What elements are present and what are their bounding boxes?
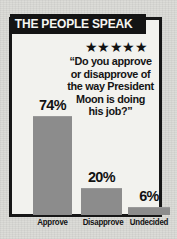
poll-question: “Do you approve or disapprove of the way… xyxy=(63,55,157,118)
bar-group-approve: 74% Approve xyxy=(33,116,72,215)
question-line-1: “Do you approve xyxy=(63,55,157,68)
bar-group-undecided: 6% Undecided xyxy=(128,207,170,215)
star-rating-icon: ★★★★★ xyxy=(72,40,160,54)
header-banner: THE PEOPLE SPEAK xyxy=(10,14,146,34)
question-line-4: Moon is doing xyxy=(63,93,157,106)
header-title: THE PEOPLE SPEAK xyxy=(10,17,132,31)
question-line-5: his job?” xyxy=(63,105,157,118)
bar-label-disapprove: Disapprove xyxy=(83,215,121,227)
bar-label-undecided: Undecided xyxy=(130,215,169,227)
question-line-2: or disapprove of xyxy=(63,68,157,81)
bar-approve xyxy=(33,116,72,215)
bar-value-disapprove: 20% xyxy=(82,169,120,184)
bar-value-undecided: 6% xyxy=(129,188,168,203)
bar-group-disapprove: 20% Disapprove xyxy=(81,188,122,215)
question-line-3: the way President xyxy=(63,80,157,93)
bar-label-approve: Approve xyxy=(35,215,71,227)
bar-undecided xyxy=(128,207,170,215)
bar-disapprove xyxy=(81,188,122,215)
